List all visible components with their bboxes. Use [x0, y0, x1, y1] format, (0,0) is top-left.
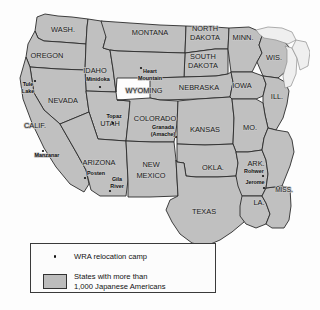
state-label: LA. [253, 198, 264, 207]
map-legend: WRA relocation camp States with more tha… [30, 243, 216, 293]
legend-camp-label: WRA relocation camp [70, 252, 147, 262]
camp-label: Manzanar [35, 152, 61, 158]
state-label: OREGON [31, 51, 64, 60]
camp-label: Heart [143, 68, 157, 74]
state-label: MO. [243, 123, 257, 132]
state-label: COLORADO [134, 114, 177, 123]
state-label: OKLA. [202, 163, 224, 172]
legend-key-camp [40, 255, 70, 258]
state-label: WASH. [51, 25, 75, 34]
camp-dot[interactable] [84, 177, 86, 179]
state-label: UTAH [100, 119, 120, 128]
state-label: NORTH [192, 24, 218, 33]
state-label: WIS. [266, 53, 282, 62]
legend-states-label: States with more than 1,000 Japanese Ame… [70, 272, 166, 291]
state-label: NEBRASKA [179, 83, 219, 92]
legend-row-states: States with more than 1,000 Japanese Ame… [31, 269, 215, 294]
state-label: NEW [142, 160, 159, 169]
state-label: ILL. [271, 92, 283, 101]
camp-dot[interactable] [112, 122, 114, 124]
state-label: IOWA [232, 81, 252, 90]
legend-states-line1: States with more than [74, 272, 166, 282]
camp-label: River [110, 183, 124, 189]
camp-label: Posten [87, 170, 105, 176]
camp-label: Lake [22, 88, 34, 94]
camp-label: Jerome [245, 179, 264, 185]
state-label: DAKOTA [188, 61, 218, 70]
camp-dot[interactable] [140, 67, 142, 69]
camp-dot[interactable] [262, 175, 264, 177]
state-label: MINN. [233, 33, 254, 42]
camp-label: Topaz [106, 113, 121, 119]
state-swatch-icon [43, 274, 67, 289]
state-label: MEXICO [136, 171, 165, 180]
state-oklahoma[interactable] [177, 144, 238, 177]
state-label: DAKOTA [190, 33, 220, 42]
state-label: TEXAS [192, 207, 216, 216]
legend-states-line2: 1,000 Japanese Americans [74, 282, 166, 292]
state-label: MISS. [275, 186, 293, 193]
state-label: SOUTH [190, 52, 216, 61]
camp-dot[interactable] [109, 190, 111, 192]
state-label: CALIF. [24, 121, 46, 130]
legend-key-states [40, 274, 70, 289]
camp-label: Minidoka [86, 76, 110, 82]
legend-row-camp: WRA relocation camp [31, 244, 215, 269]
state-label: ARIZONA [83, 158, 116, 167]
camp-dot[interactable] [263, 187, 265, 189]
state-label: NEVADA [48, 96, 78, 105]
state-kansas[interactable] [177, 97, 234, 145]
state-label: IDAHO [83, 66, 107, 75]
camp-dot-icon [54, 255, 57, 258]
camp-label: Granada [152, 124, 175, 130]
camp-label: Tule [23, 81, 34, 87]
state-label: WYOMING [126, 86, 163, 95]
state-label: KANSAS [190, 125, 220, 134]
camp-label: Rohwer [244, 168, 265, 174]
camp-dot[interactable] [34, 80, 36, 82]
state-label: MONTANA [132, 28, 168, 37]
state-new-mexico[interactable] [126, 141, 178, 197]
camp-dot[interactable] [99, 86, 101, 88]
camp-label: Gila [112, 176, 123, 182]
state-montana[interactable] [101, 21, 186, 53]
camp-label: Mountain [138, 75, 162, 81]
state-label: ARK. [247, 159, 264, 168]
camp-label: (Amache) [151, 131, 176, 137]
